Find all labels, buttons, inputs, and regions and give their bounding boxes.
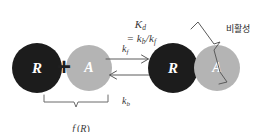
backward-rate-subscript: b	[126, 100, 130, 108]
free-receptor-paren-close: )	[86, 123, 89, 132]
forward-rate-label: kf	[112, 32, 128, 67]
backward-arrow-icon	[110, 71, 153, 79]
backward-rate-label: kb	[112, 84, 130, 119]
diagram-canvas: Kd = kb/kf R + A kf kb R A	[0, 0, 269, 132]
free-receptor-underbrace-icon	[42, 94, 110, 112]
free-receptor-function-label: f (R)	[42, 112, 110, 132]
forward-rate-subscript: f	[126, 48, 128, 56]
equation-denominator-subscript: f	[154, 37, 156, 46]
inactive-state-label: 비활성	[226, 22, 250, 35]
equation-constant-subscript: d	[142, 23, 146, 32]
plus-operator: +	[55, 54, 73, 80]
